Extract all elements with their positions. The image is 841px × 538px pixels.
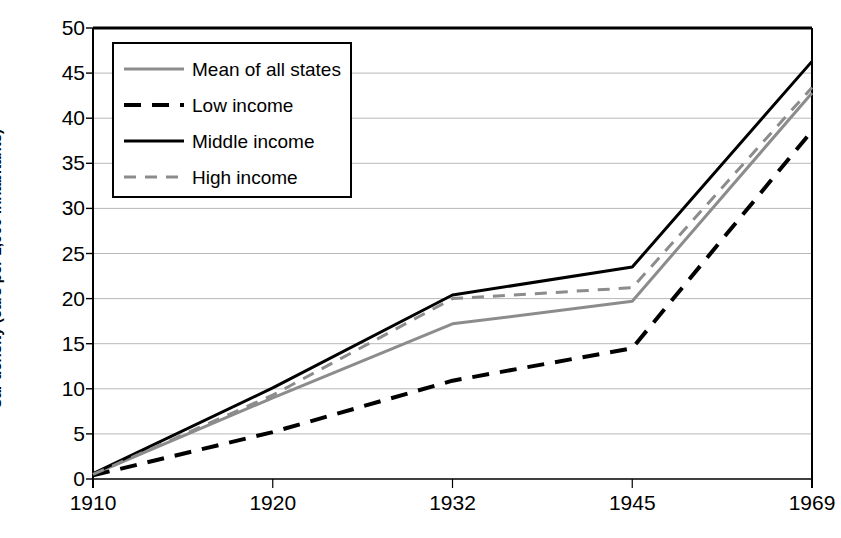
legend-label-low-income: Low income <box>192 96 293 115</box>
chart-figure: Car density (cars per 1,000 inhabitants)… <box>0 0 841 538</box>
legend-swatch-middle-income <box>122 135 186 147</box>
legend-label-mean-of-all-states: Mean of all states <box>192 60 341 79</box>
legend-item: High income <box>114 159 350 195</box>
legend-item: Mean of all states <box>114 51 350 87</box>
legend-swatch-high-income <box>122 171 186 183</box>
legend: Mean of all states Low income Middle inc… <box>112 42 352 198</box>
legend-label-high-income: High income <box>192 168 298 187</box>
legend-item: Low income <box>114 87 350 123</box>
legend-item: Middle income <box>114 123 350 159</box>
x-axis-ticks <box>93 479 812 488</box>
legend-swatch-low-income <box>122 99 186 111</box>
legend-label-middle-income: Middle income <box>192 132 315 151</box>
legend-swatch-mean-of-all-states <box>122 63 186 75</box>
